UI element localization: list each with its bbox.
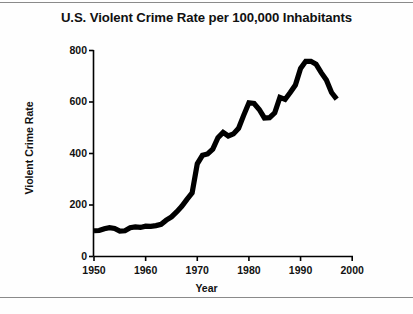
x-axis-tick-label: 2000 <box>332 264 372 276</box>
x-axis-tick-label: 1980 <box>229 264 269 276</box>
x-axis-tick-label: 1960 <box>126 264 166 276</box>
y-axis-tick-label: 400 <box>53 147 87 159</box>
x-axis-tick-label: 1970 <box>177 264 217 276</box>
plot-area: 0200400600800 195019601970198019902000 V… <box>0 0 413 314</box>
x-axis-label: Year <box>0 282 413 294</box>
y-axis-label: Violent Crime Rate <box>23 83 35 213</box>
x-axis-tick-label: 1990 <box>281 264 321 276</box>
y-axis-tick-label: 600 <box>53 95 87 107</box>
x-axis-tick-label: 1950 <box>74 264 114 276</box>
y-axis-tick-label: 200 <box>53 198 87 210</box>
figure-canvas: U.S. Violent Crime Rate per 100,000 Inha… <box>0 0 413 314</box>
y-axis-tick-label: 800 <box>53 44 87 56</box>
y-axis-tick-label: 0 <box>53 250 87 262</box>
violent-crime-rate-line <box>94 61 337 231</box>
